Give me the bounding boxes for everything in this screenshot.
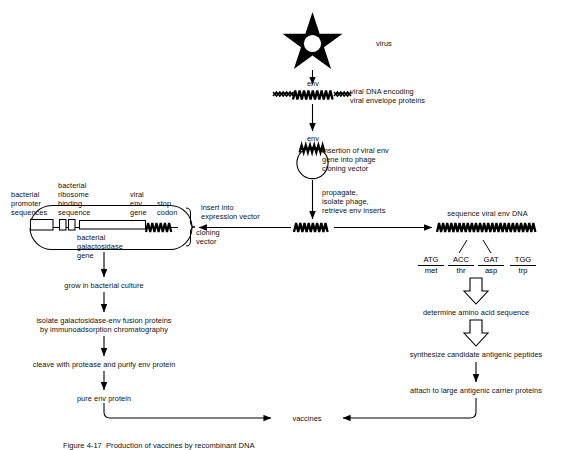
cloning-vector-label-line1: cloning [196, 228, 220, 237]
propagate-line2: isolate phage, [322, 197, 369, 206]
virus-label: virus [376, 39, 392, 48]
step-isolate-fusion-proteins-line2: by immunoadsorption chromatography [9, 325, 199, 334]
galactosidase-label-line3: gene [77, 251, 94, 260]
figure-canvas: virus env viral DNA encoding viral envel… [0, 0, 573, 450]
phage-insertion-line1: insertion of viral env [322, 146, 389, 155]
vaccines-label: vaccines [282, 414, 332, 423]
sequence-viral-env-dna-label: sequence viral env DNA [420, 209, 555, 218]
codon-1-amino-acid: thr [448, 266, 474, 275]
step-attach-carrier-proteins: attach to large antigenic carrier protei… [386, 386, 566, 395]
ribosome-box-b [69, 220, 76, 231]
ribosome-label-line4: sequence [58, 208, 90, 217]
propagate-line3: retrieve env inserts [322, 206, 385, 215]
codon-0-triplet: ATG [418, 255, 444, 266]
phage-insertion-line2: gene into phage [322, 155, 376, 164]
step-grow-bacterial-culture: grow in bacterial culture [24, 281, 184, 290]
phage-env-label: env [293, 134, 333, 143]
codon-1-triplet: ACC [448, 255, 474, 266]
codon-3-amino-acid: trp [510, 266, 536, 275]
dna-insert-icon [294, 223, 328, 232]
codon-0-amino-acid: met [418, 266, 444, 275]
promoter-box [31, 220, 54, 231]
promoter-label-line1: bacterial [11, 190, 39, 199]
arrow-peptides-to-vaccines [343, 398, 476, 418]
stop-codon-label-line1: stop [157, 199, 171, 208]
galactosidase-box [80, 221, 146, 230]
block-arrow-codons-to-determine [464, 278, 488, 304]
codon-2-triplet: GAT [478, 255, 504, 266]
propagate-line1: propagate, [322, 188, 358, 197]
star-virus-icon [283, 12, 343, 69]
step-pure-env-protein: pure env protein [44, 394, 164, 403]
viral-dna-label-line1: viral DNA encoding [350, 87, 414, 96]
arrow-pure-protein-to-vaccines [104, 403, 271, 418]
phage-insertion-line3: cloning vector [322, 164, 368, 173]
codon-3-triplet: TGG [510, 255, 536, 266]
step-synthesize-peptides: synthesize candidate antigenic peptides [386, 350, 566, 359]
ribosome-label-line1: bacterial [58, 181, 86, 190]
ribosome-box-a [60, 220, 67, 231]
viral-env-gene-label-line3: gene [130, 208, 147, 217]
dna-strand-icon [273, 91, 351, 100]
codon-leader-left [459, 240, 467, 253]
insert-into-line2: expression vector [201, 212, 260, 221]
viral-env-gene-label-line1: viral [130, 190, 144, 199]
step-isolate-fusion-proteins-line1: isolate galactosidase-env fusion protein… [9, 316, 199, 325]
diagram-vector-layer [0, 0, 573, 450]
step-determine-amino-acid-sequence: determine amino acid sequence [396, 308, 556, 317]
promoter-label-line2: promoter [11, 199, 41, 208]
step-cleave-protease: cleave with protease and purify env prot… [9, 360, 199, 369]
cloning-vector-label-line2: vector [196, 237, 216, 246]
galactosidase-label-line1: bacterial [77, 233, 105, 242]
viral-dna-label-line2: viral envelope proteins [350, 96, 425, 105]
codon-2-amino-acid: asp [478, 266, 504, 275]
promoter-label-line3: sequences [11, 208, 47, 217]
viral-dna-env-label: env [293, 79, 333, 88]
block-arrow-determine-to-synthesize [464, 320, 488, 346]
stop-codon-label-line2: codon [157, 208, 177, 217]
ribosome-label-line2: ribosome [58, 190, 89, 199]
codon-leader-right [483, 240, 491, 253]
figure-caption: Figure 4-17 Production of vaccines by re… [63, 441, 255, 450]
insert-into-line1: insert into [201, 203, 234, 212]
galactosidase-label-line2: galactosidase [77, 242, 123, 251]
ribosome-label-line3: binding [58, 199, 82, 208]
viral-env-gene-label-line2: env [130, 199, 142, 208]
dna-sequence-icon [437, 223, 535, 232]
